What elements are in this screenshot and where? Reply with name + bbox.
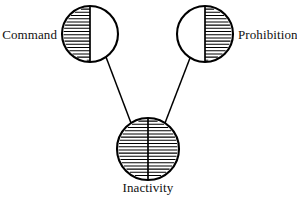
diagram-svg: Command Prohibition Inactivity <box>0 0 297 197</box>
edges-group <box>106 57 190 123</box>
node-prohibition[interactable]: Prohibition <box>177 6 297 62</box>
prohibition-label: Prohibition <box>238 27 297 42</box>
command-label: Command <box>2 27 57 42</box>
inactivity-label: Inactivity <box>123 180 174 195</box>
edge-prohibition-inactivity <box>165 58 190 123</box>
node-inactivity[interactable]: Inactivity <box>117 118 179 195</box>
diagram-canvas: Command Prohibition Inactivity <box>0 0 297 197</box>
edge-command-inactivity <box>106 57 131 123</box>
node-command[interactable]: Command <box>2 6 118 62</box>
